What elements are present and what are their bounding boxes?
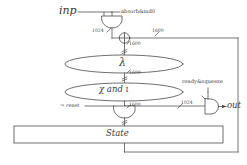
- and-gate-output-shape: [205, 99, 219, 114]
- label-state: State: [106, 129, 129, 138]
- tick-1024: [107, 28, 111, 32]
- label-width-feedback-bus: 1600: [152, 29, 164, 34]
- label-chi-iota: χ and ι: [99, 85, 129, 94]
- label-lambda: λ: [119, 57, 126, 68]
- label-ready-squeeze: ready&squeeze: [182, 79, 223, 84]
- label-width-lambda-out: 1600: [129, 71, 141, 76]
- label-width-squeeze-bus: 1024: [181, 101, 193, 106]
- wire-gate-inputs: [104, 12, 112, 16]
- label-width-chi-out: 1600: [129, 103, 141, 108]
- label-width-xor-out: 1600: [129, 42, 141, 47]
- and-gate-input-shape: [102, 16, 122, 28]
- label-absorb-md0: absorb&md0: [121, 9, 155, 14]
- label-reset: ¬ reset: [60, 103, 79, 108]
- wire-ready-control: [202, 92, 208, 99]
- label-inp: inp: [59, 5, 77, 16]
- and-gate-reset-shape: [114, 106, 135, 118]
- label-width-input-bus: 1024: [92, 29, 104, 34]
- label-out: out: [227, 101, 241, 110]
- diagram-canvas: inp absorb&md0 1024 1600 1600 λ 1600 χ a…: [0, 0, 247, 165]
- arrow-out: [222, 105, 226, 108]
